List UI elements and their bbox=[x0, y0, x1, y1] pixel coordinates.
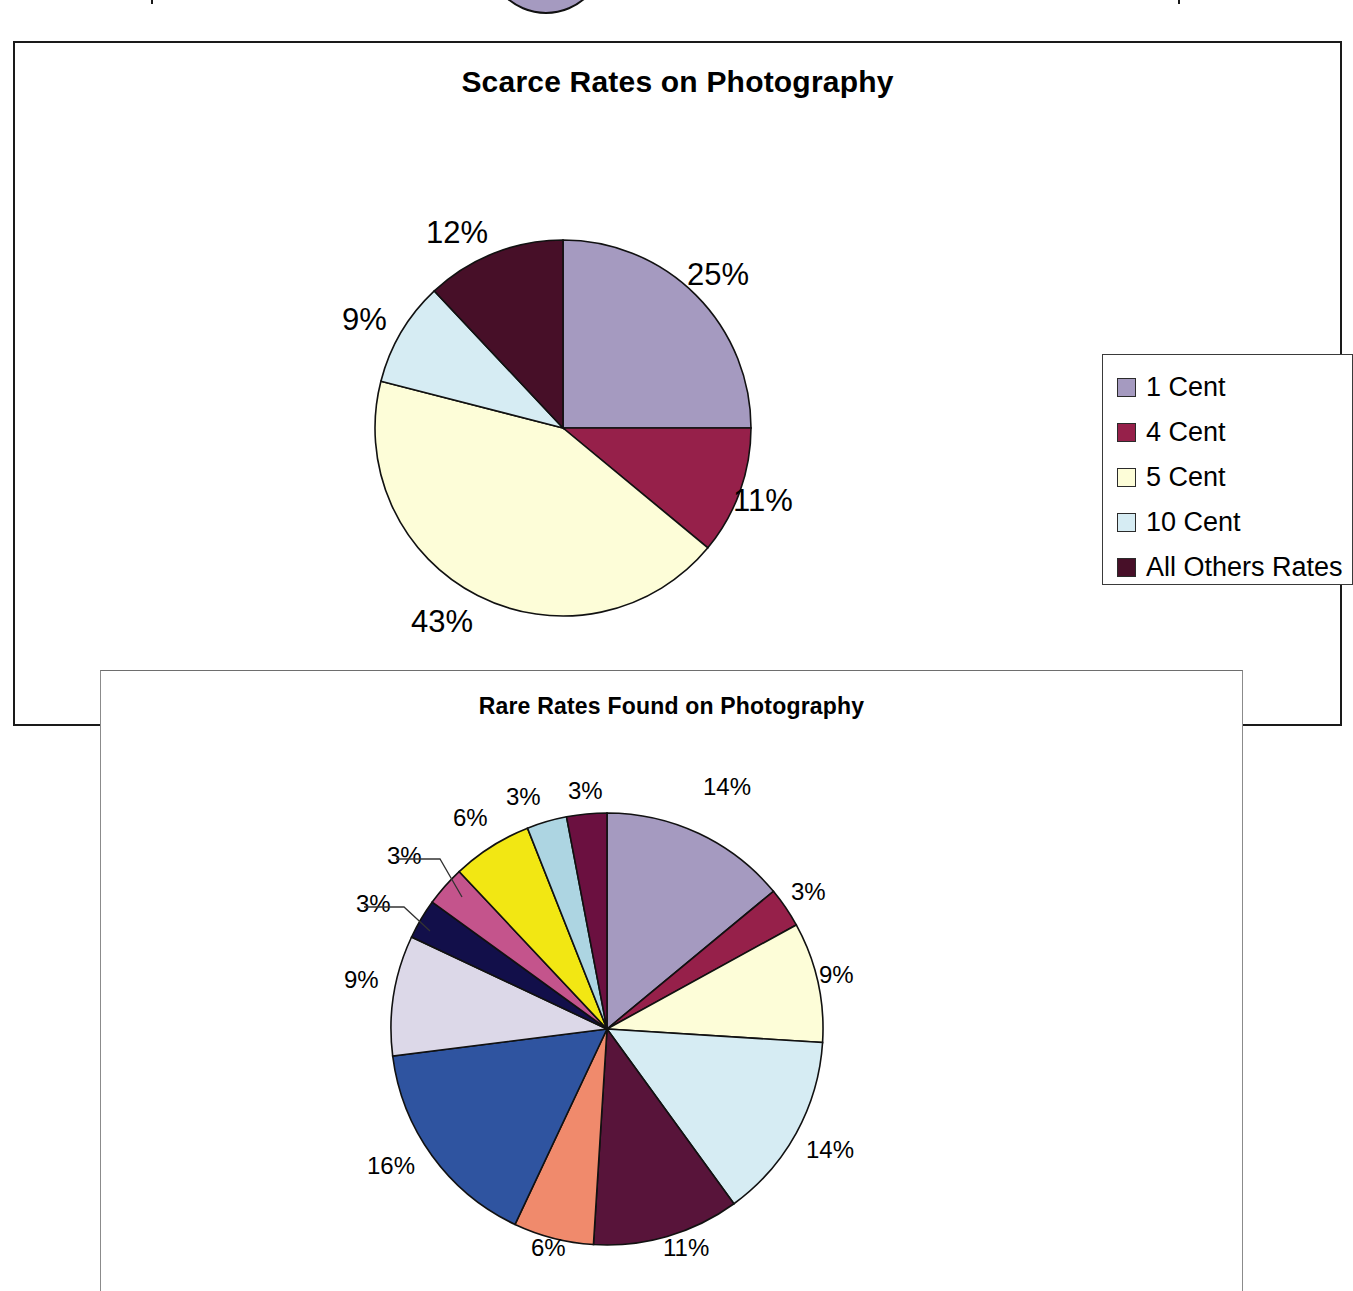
legend-label: 10 Cent bbox=[1146, 507, 1241, 538]
chart2-label-50-cent: 6% bbox=[453, 804, 488, 832]
legend-item-1-cent[interactable]: 1 Cent bbox=[1117, 365, 1352, 410]
chart1-pie-svg bbox=[373, 238, 753, 618]
chart2-label-12-cent: 11% bbox=[663, 1234, 709, 1262]
chart2-label-one-dollar: 3% bbox=[568, 777, 603, 805]
chart1-title: Scarce Rates on Photography bbox=[15, 65, 1340, 99]
chart2-label-6-cent: 14% bbox=[703, 773, 751, 801]
legend-swatch-icon bbox=[1117, 468, 1136, 487]
chart2-label-15-cent: 16% bbox=[367, 1152, 415, 1180]
legend-swatch-icon bbox=[1117, 513, 1136, 532]
previous-chart-frame-partial bbox=[151, 0, 1180, 4]
legend-item-all-others-rates[interactable]: All Others Rates bbox=[1117, 545, 1352, 590]
chart1-legend: 1 Cent 4 Cent 5 Cent 10 Cent All Others … bbox=[1102, 354, 1353, 585]
chart2-label-7-5-cent: 3% bbox=[791, 878, 826, 906]
chart2-label-9-cent: 14% bbox=[806, 1136, 854, 1164]
legend-swatch-icon bbox=[1117, 378, 1136, 397]
chart2-label-8-cent: 9% bbox=[819, 961, 854, 989]
chart1-label-5-cent: 43% bbox=[411, 604, 473, 640]
chart1-pie bbox=[373, 238, 753, 618]
legend-item-10-cent[interactable]: 10 Cent bbox=[1117, 500, 1352, 545]
chart2-label-13-cent: 6% bbox=[531, 1234, 566, 1262]
chart1-label-all-others: 12% bbox=[426, 215, 488, 251]
legend-label: 5 Cent bbox=[1146, 462, 1226, 493]
legend-swatch-icon bbox=[1117, 423, 1136, 442]
chart1-label-1-cent: 25% bbox=[687, 257, 749, 293]
chart2-title: Rare Rates Found on Photography bbox=[101, 693, 1242, 720]
legend-item-5-cent[interactable]: 5 Cent bbox=[1117, 455, 1352, 500]
legend-label: 4 Cent bbox=[1146, 417, 1226, 448]
chart1-label-10-cent: 9% bbox=[342, 302, 387, 338]
legend-swatch-icon bbox=[1117, 558, 1136, 577]
legend-item-4-cent[interactable]: 4 Cent bbox=[1117, 410, 1352, 455]
chart2-label-75-cent: 3% bbox=[506, 783, 541, 811]
legend-label: 1 Cent bbox=[1146, 372, 1226, 403]
leader-line-25-cent bbox=[364, 897, 484, 1017]
chart1-label-4-cent: 11% bbox=[733, 483, 793, 519]
legend-label: All Others Rates bbox=[1146, 552, 1343, 583]
rare-rates-chart-frame: Rare Rates Found on Photography 14% 3% 9… bbox=[100, 670, 1243, 1291]
scarce-rates-chart-frame: Scarce Rates on Photography 25% 11% 43% … bbox=[13, 41, 1342, 726]
